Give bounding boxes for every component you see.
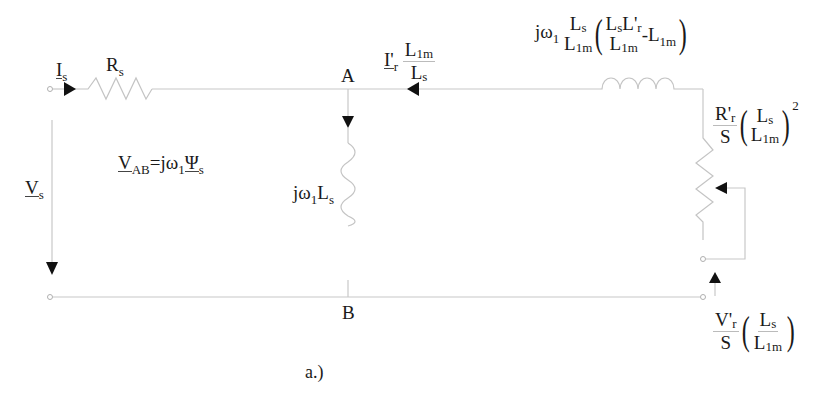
rotor-resistor [696,130,713,240]
rotor-current-arrow [407,82,419,96]
vab-equation-label: VAB=jω1Ψs [118,153,204,172]
rotor-resistance-label: R'r S ( Ls L1m )2 [713,104,799,147]
leakage-inductor [600,78,703,89]
node-a-label: A [341,66,355,85]
stator-current-arrow [64,82,76,96]
leakage-inner-ratio: LsL'r L1m [606,14,642,54]
terminal-rotor-bottom [701,295,706,300]
stator-resistance-label: Rs [106,55,124,74]
leakage-inductance-label: jω1 Ls L1m ( LsL'r L1m -L1m) [535,14,690,54]
rotor-resistance-over-slip: R'r S [713,104,737,147]
rotor-resistor-tap-arrow [715,182,727,194]
rotor-voltage-over-slip: V'r S [713,310,739,353]
rotor-current-ratio: L1m Ls [403,40,435,83]
rotor-voltage-arrow [709,272,721,283]
leakage-outer-ratio: Ls L1m [564,14,592,54]
stator-current-label: Is [56,60,67,79]
rotor-current-label: I'r L1m Ls [384,40,435,83]
figure-caption: a.) [305,363,323,381]
terminal-rotor-top [701,257,706,262]
stator-resistor [80,78,152,99]
rotor-voltage-label: V'r S ( Ls L1m ) [713,310,797,353]
terminal-bottom-left [48,295,53,300]
magnetizing-inductor [341,143,355,226]
magnetizing-inductance-label: jω1Ls [293,183,334,202]
stator-voltage-label: Vs [25,178,44,197]
rotor-voltage-inductance-ratio: Ls L1m [752,310,784,353]
rotor-resistor-tap-wire [706,188,745,259]
stator-voltage-arrow [46,262,58,275]
terminal-top-left [48,87,53,92]
magnetizing-current-arrow [342,116,354,128]
rotor-resistance-inductance-ratio: Ls L1m [751,106,779,146]
node-b-label: B [342,303,355,322]
